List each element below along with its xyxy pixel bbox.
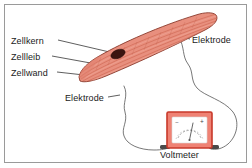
label-zellkern: Zellkern: [11, 36, 44, 46]
leader-line-elektrode-bottom: [108, 95, 120, 97]
terminal-positive-mark: +: [200, 118, 204, 125]
cell-body: [79, 13, 217, 82]
terminal-negative-mark: −: [175, 119, 179, 125]
figure-canvas: − + Zellkern Zellleib Zellwand Elektrode…: [0, 0, 252, 168]
label-elektrode-bottom: Elektrode: [65, 93, 104, 103]
label-zellleib: Zellleib: [11, 52, 40, 62]
voltmeter-device[interactable]: − +: [160, 112, 219, 149]
label-zellwand: Zellwand: [11, 68, 48, 78]
wire-left-electrode: [123, 86, 168, 150]
label-voltmeter: Voltmeter: [160, 150, 199, 160]
voltmeter-pivot: [188, 139, 190, 141]
muscle-cell: [79, 13, 217, 83]
diagram-svg: − +: [0, 0, 252, 168]
label-elektrode-top: Elektrode: [192, 35, 231, 45]
